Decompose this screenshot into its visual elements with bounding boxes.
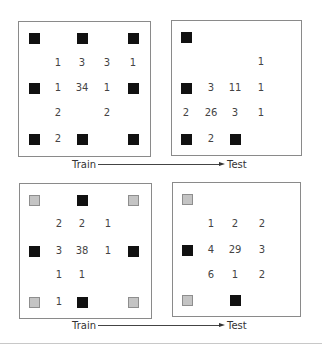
- separator-line: [0, 343, 322, 344]
- gray-square-marker: [29, 297, 40, 308]
- count-value: 2: [70, 216, 94, 232]
- gray-square-marker: [29, 195, 40, 206]
- gray-square-marker: [182, 194, 193, 205]
- count-value: 4: [199, 242, 223, 258]
- black-square-marker: [230, 295, 241, 306]
- count-value: 2: [250, 267, 274, 283]
- count-value: 29: [223, 242, 247, 258]
- count-value: 2: [46, 105, 70, 121]
- count-value: 2: [223, 216, 247, 232]
- gray-square-marker: [128, 195, 139, 206]
- count-value: 1: [96, 243, 120, 259]
- count-value: 1: [95, 80, 119, 96]
- count-value: 1: [47, 294, 71, 310]
- count-value: 2: [47, 216, 71, 232]
- black-square-marker: [128, 83, 139, 94]
- count-value: 1: [96, 216, 120, 232]
- count-value: 3: [47, 243, 71, 259]
- black-square-marker: [181, 83, 192, 94]
- count-value: 2: [95, 105, 119, 121]
- count-value: 38: [70, 243, 94, 259]
- count-value: 2: [250, 216, 274, 232]
- train-label: Train: [72, 159, 96, 171]
- black-square-marker: [29, 33, 40, 44]
- train-label: Train: [72, 320, 96, 332]
- black-square-marker: [128, 33, 139, 44]
- black-square-marker: [77, 134, 88, 145]
- count-value: 1: [249, 54, 273, 70]
- count-value: 6: [199, 267, 223, 283]
- black-square-marker: [77, 297, 88, 308]
- black-square-marker: [128, 246, 139, 257]
- test-label: Test: [227, 320, 247, 332]
- count-value: 3: [250, 242, 274, 258]
- black-square-marker: [29, 83, 40, 94]
- black-square-marker: [77, 195, 88, 206]
- count-value: 1: [47, 267, 71, 283]
- arrow-line: [98, 325, 219, 326]
- arrow-head-icon: [219, 323, 225, 327]
- count-value: 2: [46, 131, 70, 147]
- count-value: 2: [199, 131, 223, 147]
- count-value: 1: [199, 216, 223, 232]
- count-value: 1: [249, 105, 273, 121]
- count-value: 3: [223, 105, 247, 121]
- gray-square-marker: [182, 295, 193, 306]
- count-value: 1: [46, 55, 70, 71]
- count-value: 1: [249, 80, 273, 96]
- black-square-marker: [181, 134, 192, 145]
- count-value: 1: [121, 55, 145, 71]
- count-value: 2: [174, 105, 198, 121]
- black-square-marker: [29, 134, 40, 145]
- count-value: 26: [199, 105, 223, 121]
- count-value: 11: [223, 80, 247, 96]
- black-square-marker: [181, 32, 192, 43]
- count-value: 3: [199, 80, 223, 96]
- black-square-marker: [77, 33, 88, 44]
- gray-square-marker: [128, 297, 139, 308]
- count-value: 3: [70, 55, 94, 71]
- count-value: 1: [70, 267, 94, 283]
- count-value: 1: [223, 267, 247, 283]
- count-value: 34: [70, 80, 94, 96]
- arrow-line: [98, 164, 219, 165]
- arrow-head-icon: [219, 162, 225, 166]
- black-square-marker: [182, 245, 193, 256]
- black-square-marker: [29, 246, 40, 257]
- black-square-marker: [128, 134, 139, 145]
- count-value: 3: [95, 55, 119, 71]
- test-label: Test: [227, 159, 247, 171]
- count-value: 1: [46, 80, 70, 96]
- black-square-marker: [230, 134, 241, 145]
